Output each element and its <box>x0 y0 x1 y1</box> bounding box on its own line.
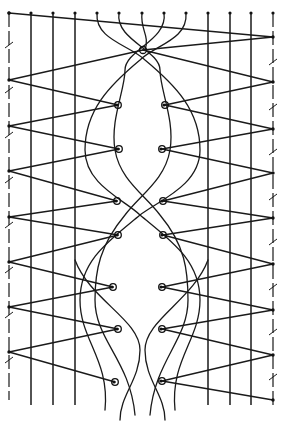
inner-pin-dot <box>110 285 113 288</box>
edge-pin-right <box>271 171 274 174</box>
top-pin <box>140 11 143 14</box>
top-pin <box>73 11 76 14</box>
inner-pin-dot <box>115 103 118 106</box>
worker-left <box>9 105 118 126</box>
edge-pin-right <box>271 353 274 356</box>
edge-pin-left <box>7 11 10 14</box>
worker-right <box>162 287 273 310</box>
worker-left <box>9 201 117 217</box>
worker-right <box>162 310 273 329</box>
braid-curve <box>85 13 200 410</box>
edge-pin-left <box>7 350 10 353</box>
inner-pin-dot <box>162 103 165 106</box>
edge-pin-left <box>7 124 10 127</box>
worker-right <box>165 82 273 105</box>
top-pin <box>117 11 120 14</box>
worker <box>9 13 273 37</box>
edge-pin-left <box>7 305 10 308</box>
worker-left <box>9 329 118 352</box>
worker-right <box>163 173 273 201</box>
edge-pin-right <box>271 216 274 219</box>
top-pin <box>271 11 274 14</box>
edge-pin-right <box>271 80 274 83</box>
inner-pin-dot <box>159 147 162 150</box>
pin-dots <box>7 11 274 401</box>
edge-pin-right <box>271 127 274 130</box>
worker-threads <box>9 13 273 400</box>
worker-left <box>9 287 113 307</box>
worker-right <box>162 329 273 355</box>
edge-pin-right <box>271 262 274 265</box>
inner-pin-dot <box>159 285 162 288</box>
edge-pin-right <box>271 398 274 401</box>
edge-pin-left <box>7 169 10 172</box>
worker-right <box>162 355 273 381</box>
inner-pin-dot <box>159 379 162 382</box>
worker-right <box>162 381 273 400</box>
worker-right <box>165 105 273 129</box>
lace-drawing <box>0 0 281 421</box>
edge-pin-left <box>7 215 10 218</box>
worker-right <box>162 149 273 173</box>
braid-curve <box>75 260 140 420</box>
top-pin <box>29 11 32 14</box>
edge-pin-left <box>7 260 10 263</box>
inner-pin-dot <box>116 147 119 150</box>
edge-pin-right <box>271 35 274 38</box>
lace-diagram <box>0 0 281 421</box>
top-pin <box>51 11 54 14</box>
worker-left <box>9 80 118 105</box>
inner-pin-dot <box>115 233 118 236</box>
worker-right <box>162 129 273 149</box>
inner-pin-dot <box>112 380 115 383</box>
inner-pin-dot <box>115 327 118 330</box>
worker-right <box>162 264 273 287</box>
worker-left <box>9 149 119 171</box>
worker-left <box>9 352 115 382</box>
worker-left <box>9 217 118 235</box>
worker-right <box>163 218 273 235</box>
worker-left <box>9 307 118 329</box>
inner-pin-dot <box>159 327 162 330</box>
edge-pin-left <box>7 78 10 81</box>
top-pin <box>228 11 231 14</box>
inner-pin-dot <box>160 199 163 202</box>
braid-curve <box>142 13 147 50</box>
worker-left <box>9 171 117 201</box>
worker-left <box>9 126 119 149</box>
braid-curves <box>75 13 208 420</box>
top-pin <box>249 11 252 14</box>
top-pin <box>184 11 187 14</box>
top-pin <box>206 11 209 14</box>
worker-right <box>163 201 273 218</box>
inner-pin-dot <box>160 233 163 236</box>
top-pin <box>162 11 165 14</box>
edge-pin-right <box>271 308 274 311</box>
top-pin <box>95 11 98 14</box>
inner-pin-dot <box>114 199 117 202</box>
